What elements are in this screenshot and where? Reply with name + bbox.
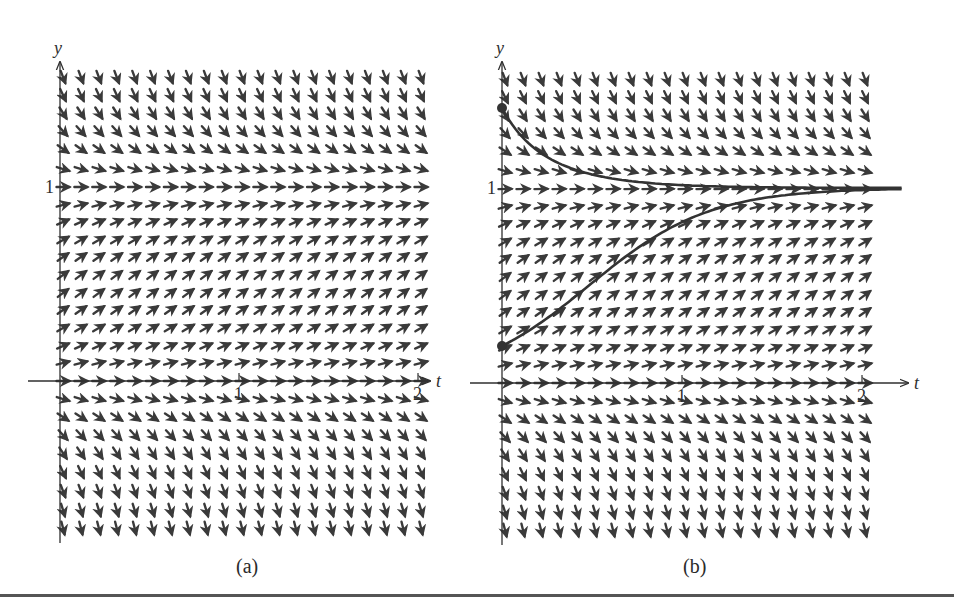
slope-arrow (75, 167, 87, 171)
slope-arrow (553, 239, 564, 246)
slope-arrow (589, 327, 600, 334)
slope-arrow (593, 524, 596, 537)
slope-arrow (787, 221, 799, 226)
slope-arrow (398, 271, 408, 279)
slope-arrow (111, 413, 122, 420)
slope-arrow (93, 325, 104, 332)
slope-arrow (825, 450, 832, 461)
slope-arrow (77, 430, 86, 439)
slope-arrow (626, 147, 637, 154)
slope-arrow (203, 89, 209, 101)
slope-arrow (753, 450, 760, 461)
slope-arrow (537, 128, 546, 138)
slope-arrow (700, 91, 706, 103)
slope-arrow (273, 430, 282, 439)
slope-arrow (607, 239, 618, 246)
slope-arrow (553, 169, 566, 173)
slope-arrow (591, 450, 598, 461)
slope-arrow (716, 291, 726, 299)
y-axis-label: y (494, 38, 504, 58)
slope-arrow (517, 221, 529, 226)
slope-arrow (824, 291, 834, 299)
slope-arrow (841, 363, 854, 366)
slope-arrow (417, 448, 424, 459)
slope-arrow (347, 71, 352, 83)
slope-arrow (809, 524, 812, 537)
slope-arrow (96, 466, 102, 478)
slope-arrow (808, 91, 814, 103)
slope-arrow (573, 450, 580, 461)
slope-arrow (860, 255, 871, 262)
slope-arrow (591, 432, 600, 441)
slope-arrow (79, 504, 83, 516)
slope-arrow (701, 73, 706, 85)
slope-arrow (220, 126, 229, 136)
slope-arrow (203, 466, 209, 478)
slope-arrow (681, 128, 690, 138)
slope-arrow (589, 239, 600, 246)
slope-arrow (554, 255, 565, 262)
slope-arrow (859, 363, 872, 366)
slope-arrow (130, 126, 139, 136)
slope-arrow (415, 167, 427, 171)
slope-arrow (78, 89, 84, 101)
slope-arrow (805, 169, 818, 173)
slope-arrow (715, 363, 728, 366)
y-axis-label: y (52, 38, 62, 58)
slope-arrow (344, 325, 355, 332)
slope-arrow (809, 73, 814, 85)
slope-arrow (806, 291, 816, 299)
slope-arrow (863, 487, 868, 499)
slope-arrow (147, 253, 158, 260)
slope-arrow (325, 397, 337, 401)
slope-arrow (609, 128, 618, 138)
slope-arrow (293, 89, 299, 101)
slope-arrow (308, 145, 319, 152)
slope-arrow (539, 73, 544, 85)
slope-arrow (862, 91, 868, 103)
slope-arrow (661, 221, 673, 226)
slope-arrow (697, 221, 709, 226)
slope-arrow (683, 506, 687, 518)
slope-arrow (345, 126, 354, 136)
slope-arrow (276, 522, 279, 535)
slope-arrow (258, 485, 263, 497)
slope-arrow (362, 253, 373, 260)
slope-arrow (293, 71, 298, 83)
slope-arrow (770, 273, 780, 281)
slope-arrow (808, 468, 814, 480)
slope-arrow (499, 221, 511, 226)
slope-arrow (75, 237, 86, 244)
slope-arrow (555, 450, 562, 461)
slope-arrow (502, 468, 508, 480)
slope-arrow (791, 524, 794, 537)
slope-arrow (362, 413, 373, 420)
slope-arrow (537, 432, 546, 441)
slope-arrows (499, 73, 872, 536)
slope-arrow (290, 237, 301, 244)
slope-arrow (842, 273, 852, 281)
slope-arrow (111, 325, 122, 332)
slope-arrow (593, 73, 598, 85)
slope-arrow (556, 468, 562, 480)
slope-arrow (128, 203, 141, 206)
slope-arrow (737, 487, 742, 499)
slope-arrow (148, 126, 157, 136)
slope-arrow (236, 361, 249, 364)
slope-arrow (236, 203, 249, 206)
slope-arrow (679, 205, 692, 208)
slope-arrow (165, 271, 175, 279)
slope-arrow (326, 413, 337, 420)
slope-arrow (292, 108, 299, 119)
slope-arrow (733, 169, 746, 173)
slope-arrow (788, 147, 799, 154)
slope-arrow (521, 73, 526, 85)
slope-arrows (57, 71, 428, 534)
slope-arrow (112, 271, 122, 279)
slope-arrow (538, 468, 544, 480)
slope-arrow (325, 361, 338, 364)
slope-arrow (254, 361, 267, 364)
slope-arrow (647, 487, 652, 499)
slope-arrow (826, 110, 833, 121)
slope-arrow (718, 91, 724, 103)
